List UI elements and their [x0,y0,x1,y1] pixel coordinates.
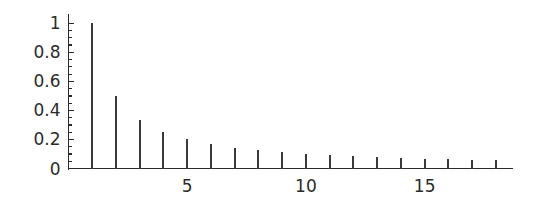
x-axis-tick-label: 15 [414,176,436,196]
chart-container: 00.20.40.60.8151015 [0,0,544,202]
x-axis-tick-label: 5 [182,176,193,196]
y-axis-tick-label: 0.6 [33,71,60,91]
y-axis-tick-label: 0.4 [33,100,60,120]
y-axis-tick-label: 0 [50,159,61,179]
y-axis-tick-label: 0.2 [33,129,60,149]
x-axis-tick-label: 10 [295,176,317,196]
stem-plot: 00.20.40.60.8151015 [0,0,544,202]
y-axis-tick-label: 0.8 [33,42,60,62]
y-axis-tick-label: 1 [50,13,61,33]
